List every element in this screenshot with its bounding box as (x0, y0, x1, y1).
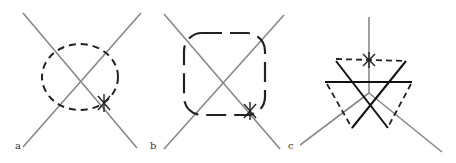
panel-b-drawing (150, 0, 300, 163)
panel-c-drawing (300, 0, 456, 163)
dashed-top-edge (336, 59, 406, 61)
panel-label-c: c (288, 140, 294, 151)
panel-label-a: a (15, 140, 21, 151)
panel-a-drawing (0, 0, 150, 163)
panel-label-b: b (150, 140, 156, 151)
diagram-figure: a b (0, 0, 456, 163)
panel-c: c (300, 0, 456, 163)
dashed-right-edge (388, 84, 411, 127)
panel-a: a (0, 0, 150, 163)
line-diagonal-right (369, 93, 442, 152)
star-marker-icon (363, 52, 375, 68)
dashed-rounded-loop (184, 33, 265, 115)
star-marker-icon (244, 102, 256, 120)
panel-b: b (150, 0, 300, 163)
